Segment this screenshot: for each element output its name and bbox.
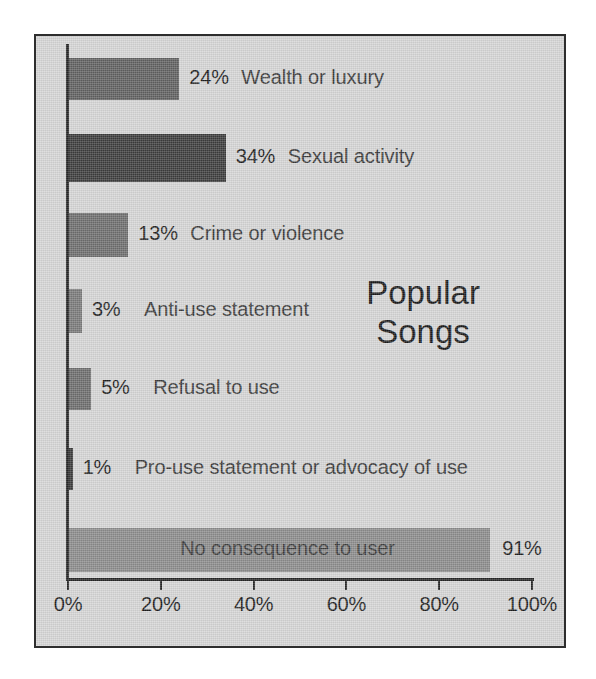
x-axis-tick-label: 40% <box>234 593 273 616</box>
bar-category-label: Sexual activity <box>288 145 414 168</box>
bar-category-label: Refusal to use <box>153 376 279 399</box>
bar-category-label: Wealth or luxury <box>241 66 384 89</box>
chart-title-line-2: Songs <box>308 312 538 351</box>
bar <box>68 213 128 257</box>
y-axis-line <box>66 44 69 578</box>
bar-value-label: 34% <box>236 145 275 168</box>
x-axis-tick-label: 80% <box>419 593 458 616</box>
bar-category-label: Anti-use statement <box>144 298 309 321</box>
chart-plot-area: 0%20%40%60%80%100% 24%Wealth or luxury34… <box>36 36 564 646</box>
x-axis-tick-label: 60% <box>327 593 366 616</box>
bar-category-label: No consequence to user <box>180 537 395 560</box>
bar-value-label: 5% <box>101 376 130 399</box>
bar <box>68 289 82 333</box>
bar-value-label: 24% <box>189 66 228 89</box>
bar-value-label: 13% <box>138 222 177 245</box>
bar <box>68 134 226 182</box>
x-axis-tick-mark <box>160 581 162 590</box>
bar-value-label: 91% <box>502 537 541 560</box>
bar <box>68 58 179 100</box>
chart-title: Popular Songs <box>308 273 538 351</box>
x-axis-tick-label: 0% <box>54 593 83 616</box>
x-axis-tick-mark <box>253 581 255 590</box>
bar-category-label: Pro-use statement or advocacy of use <box>135 456 468 479</box>
chart-title-line-1: Popular <box>308 273 538 312</box>
x-axis-tick-mark <box>438 581 440 590</box>
bar <box>68 368 91 410</box>
x-axis-tick-label: 100% <box>507 593 557 616</box>
x-axis-tick-mark <box>345 581 347 590</box>
x-axis-tick-mark <box>67 581 69 590</box>
x-axis-line <box>66 578 534 581</box>
x-axis-tick-label: 20% <box>141 593 180 616</box>
chart-frame: 0%20%40%60%80%100% 24%Wealth or luxury34… <box>34 34 566 648</box>
bar-value-label: 1% <box>83 456 112 479</box>
x-axis-tick-mark <box>531 581 533 590</box>
bar-value-label: 3% <box>92 298 121 321</box>
bar-category-label: Crime or violence <box>190 222 344 245</box>
